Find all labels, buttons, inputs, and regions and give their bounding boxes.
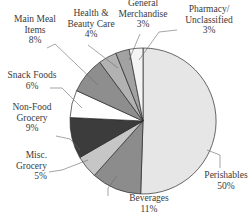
slice-name: Pharmacy/ <box>189 4 230 14</box>
slice-label: GeneralMerchandise3% <box>118 0 167 29</box>
slice-name: Beauty Care <box>67 19 114 29</box>
slice-name: Perishables <box>204 170 248 180</box>
slice-percent: 6% <box>26 81 39 91</box>
slice-percent: 50% <box>217 181 235 191</box>
slice-name: General <box>128 0 158 8</box>
slice-name: Main Meal <box>14 14 56 24</box>
slice-percent: 5% <box>34 171 47 181</box>
slice-name: Snack Foods <box>8 70 57 80</box>
slice-percent: 3% <box>203 25 216 35</box>
slice-name: Grocery <box>16 113 47 123</box>
slice-name: Grocery <box>16 161 47 171</box>
slice-name: Health & <box>73 8 109 18</box>
slice-label: Health &Beauty Care4% <box>67 8 114 39</box>
slice-label: Main MealItems8% <box>14 14 56 45</box>
slice-name: Unclassified <box>185 15 233 25</box>
slice-name: Non-Food <box>12 102 51 112</box>
slice-label: Misc.Grocery5% <box>16 150 47 181</box>
slice-name: Items <box>24 25 45 35</box>
slice-label: Non-FoodGrocery9% <box>12 102 51 133</box>
slice-label: Perishables50% <box>204 170 248 191</box>
slice-percent: 4% <box>85 29 98 39</box>
slice-percent: 3% <box>137 19 150 29</box>
slice-name: Beverages <box>129 193 169 203</box>
slice-label: Snack Foods6% <box>8 70 57 91</box>
slice-percent: 9% <box>26 123 39 133</box>
pie-chart: Perishables50%Beverages11%Misc.Grocery5%… <box>0 0 252 221</box>
slice-label: Pharmacy/Unclassified3% <box>185 4 233 35</box>
slice-label: Beverages11% <box>129 193 169 214</box>
slice-percent: 11% <box>140 204 157 214</box>
slice-name: Misc. <box>26 150 47 160</box>
pie-slices <box>70 48 216 194</box>
slice-name: Merchandise <box>118 9 167 19</box>
slice-percent: 8% <box>29 35 42 45</box>
